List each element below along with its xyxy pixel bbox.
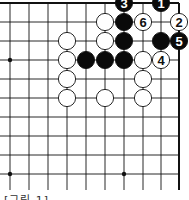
move-number: 2 [175,15,182,30]
white-stone [134,70,151,87]
white-stone [58,51,75,68]
star-point [122,172,126,176]
black-stone: 1 [152,0,169,12]
white-stone: 2 [170,13,187,30]
black-stone [77,51,94,68]
black-stone [115,13,132,30]
black-stone [115,32,132,49]
white-stone: 6 [134,13,151,30]
white-stone [58,70,75,87]
move-number: 3 [120,0,127,11]
white-stone [96,13,113,30]
white-stone [96,32,113,49]
black-stone [152,32,169,49]
go-board: 316254 [0,0,189,190]
white-stone [134,89,151,106]
white-stone [58,89,75,106]
move-number: 1 [157,0,164,11]
move-number: 5 [175,34,182,49]
star-point [8,58,12,62]
black-stone: 3 [115,0,132,12]
black-stone [96,51,113,68]
diagram-caption: [그림 1] [4,191,49,200]
board-grid [0,3,179,190]
white-stone: 4 [152,51,169,68]
move-number: 4 [157,53,165,68]
white-stone [134,51,151,68]
black-stone: 5 [170,32,187,49]
star-point [8,172,12,176]
white-stone [58,32,75,49]
stones-layer: 316254 [58,0,187,107]
black-stone [115,51,132,68]
white-stone [96,89,113,106]
move-number: 6 [139,15,146,30]
